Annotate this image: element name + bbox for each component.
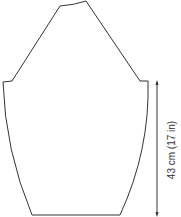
sleeve-length-label: 43 cm (17 in): [166, 121, 177, 179]
sleeve-schematic: [0, 0, 181, 217]
sleeve-outline: [3, 1, 148, 215]
length-dimension-arrow: [156, 80, 159, 217]
